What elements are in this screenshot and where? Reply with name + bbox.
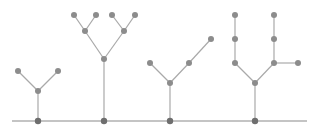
- tree-edge: [189, 39, 211, 63]
- tree-node: [232, 36, 238, 42]
- tree-node: [35, 88, 41, 94]
- tree-node: [147, 60, 153, 66]
- tree-node: [232, 12, 238, 18]
- tree-edge: [85, 31, 104, 59]
- tree-node: [15, 68, 21, 74]
- root-node: [101, 118, 107, 124]
- tree-node: [271, 12, 277, 18]
- tree-node: [132, 12, 138, 18]
- tree-edge: [38, 71, 58, 91]
- tree-node: [93, 12, 99, 18]
- tree-edge: [18, 71, 38, 91]
- tree-node: [271, 36, 277, 42]
- tree-node: [167, 80, 173, 86]
- tree-node: [186, 60, 192, 66]
- tree-edge: [255, 63, 274, 83]
- tree-edge: [112, 15, 124, 31]
- tree-node: [101, 56, 107, 62]
- tree-diagram: [0, 0, 314, 132]
- tree-edge: [104, 31, 124, 59]
- root-node: [35, 118, 41, 124]
- tree-node: [121, 28, 127, 34]
- root-node: [167, 118, 173, 124]
- tree-node: [208, 36, 214, 42]
- tree-node: [232, 60, 238, 66]
- tree-edge: [235, 63, 255, 83]
- tree-edge: [170, 63, 189, 83]
- tree-4: [232, 12, 301, 124]
- tree-node: [271, 60, 277, 66]
- tree-node: [82, 28, 88, 34]
- tree-edge: [150, 63, 170, 83]
- tree-1: [15, 68, 61, 124]
- root-node: [252, 118, 258, 124]
- tree-node: [109, 12, 115, 18]
- tree-node: [55, 68, 61, 74]
- tree-node: [252, 80, 258, 86]
- tree-2: [71, 12, 138, 124]
- tree-3: [147, 36, 214, 124]
- tree-node: [295, 60, 301, 66]
- tree-node: [71, 12, 77, 18]
